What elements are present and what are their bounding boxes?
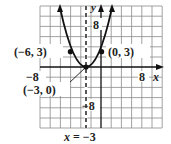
point-right (99, 49, 104, 54)
parabola-graph: y 8 −8 −8 8 x (−6, 3) (0, 3) (−3, 0) x =… (0, 0, 171, 144)
x-axis-label: x (152, 70, 159, 84)
y-axis-arrow-icon (98, 4, 104, 12)
curve-arrow-right-icon (109, 4, 115, 12)
tick-x-pos: 8 (139, 70, 145, 84)
y-axis-label: y (89, 1, 96, 13)
axis-of-symmetry-label: x = −3 (63, 130, 96, 144)
point-label-right: (0, 3) (108, 45, 134, 59)
x-axis (40, 64, 164, 70)
point-label-left: (−6, 3) (14, 45, 47, 59)
tick-x-neg: −8 (26, 70, 39, 84)
curve-arrow-left-icon (57, 4, 63, 12)
point-left (68, 49, 73, 54)
tick-y-neg: −8 (82, 99, 95, 113)
point-label-vertex: (−3, 0) (23, 83, 56, 97)
tick-y-pos: 8 (93, 18, 99, 32)
